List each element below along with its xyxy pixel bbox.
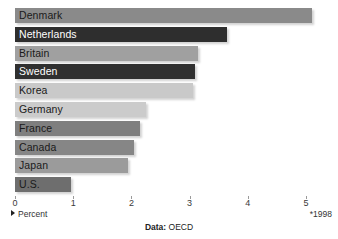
bar-label: Denmark <box>19 9 62 22</box>
bar-row: U.S. <box>15 177 71 192</box>
bar-label: Britain <box>19 47 49 60</box>
axis-tick-label: 3 <box>183 198 197 209</box>
bar-row: Netherlands <box>15 27 227 42</box>
x-axis: 012345 <box>0 196 338 210</box>
bar-row: Denmark <box>15 8 312 23</box>
source-key: Data: <box>145 222 166 232</box>
axis-tick-label: 0 <box>8 198 22 209</box>
bar-label: Japan <box>19 159 48 172</box>
plot-area: DenmarkNetherlandsBritainSwedenKoreaGerm… <box>0 0 338 196</box>
percent-label: Percent <box>18 209 47 219</box>
axis-tick-label: 2 <box>124 198 138 209</box>
axis-tick-label: 5 <box>299 198 313 209</box>
bar-row: Sweden <box>15 64 195 79</box>
bar-row: Canada <box>15 140 134 155</box>
axis-tick-label: 4 <box>241 198 255 209</box>
bar-label: Sweden <box>19 65 58 78</box>
chart-footer: Percent *1998 Data: OECD <box>0 209 338 239</box>
percent-note: Percent <box>11 209 47 220</box>
bar-label: Korea <box>19 84 48 97</box>
bar-row: Britain <box>15 46 198 61</box>
bar-row: Germany <box>15 102 146 117</box>
source-value: OECD <box>166 222 193 232</box>
source-note: Data: OECD <box>0 222 338 233</box>
bar-chart: DenmarkNetherlandsBritainSwedenKoreaGerm… <box>0 0 338 239</box>
bar-label: Canada <box>19 141 56 154</box>
axis-tick-label: 1 <box>66 198 80 209</box>
bar-row: France <box>15 121 140 136</box>
bar-label: Netherlands <box>19 28 77 41</box>
bar-label: Germany <box>19 103 63 116</box>
bar-label: France <box>19 122 52 135</box>
bar-row: Japan <box>15 158 128 173</box>
triangle-right-icon <box>11 210 15 216</box>
bar-label: U.S. <box>19 178 40 191</box>
bar-row: Korea <box>15 83 193 98</box>
year-note: *1998 <box>310 209 332 220</box>
